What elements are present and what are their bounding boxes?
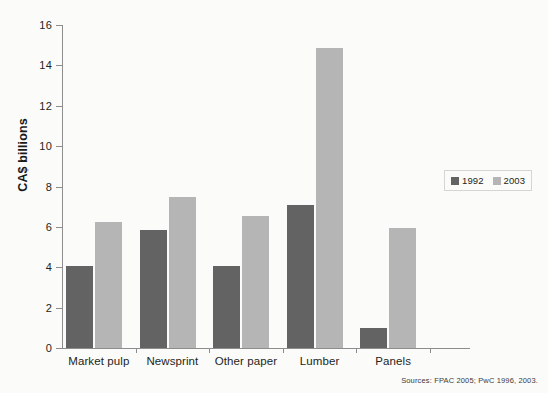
plot-area — [62, 25, 430, 348]
x-axis-label-other-paper: Other paper — [209, 355, 283, 367]
bar-group — [136, 25, 210, 348]
legend-swatch-2003 — [493, 177, 501, 185]
bar-chart-figure: CA$ billions 0246810121416 Market pulpNe… — [0, 0, 548, 393]
y-axis-tick-label: 0 — [8, 342, 52, 354]
y-axis-tick-label: 4 — [8, 261, 52, 273]
y-axis-tick-label: 14 — [8, 59, 52, 71]
bar-1992-newsprint — [140, 230, 167, 348]
bar-group — [283, 25, 357, 348]
y-axis-tick-label: 16 — [8, 19, 52, 31]
x-axis-label-newsprint: Newsprint — [136, 355, 210, 367]
bar-2003-other-paper — [242, 216, 269, 348]
bar-1992-other-paper — [213, 266, 240, 348]
x-axis-separator-tick — [283, 348, 284, 353]
x-axis-separator-tick — [209, 348, 210, 353]
legend-swatch-1992 — [451, 177, 459, 185]
bar-group — [209, 25, 283, 348]
legend-label: 1992 — [462, 175, 484, 186]
bar-2003-market-pulp — [95, 222, 122, 348]
bar-2003-lumber — [316, 48, 343, 348]
y-axis-tick-label: 6 — [8, 221, 52, 233]
x-axis-label-panels: Panels — [356, 355, 430, 367]
y-axis-tick — [56, 348, 62, 349]
bar-1992-panels — [360, 328, 387, 348]
y-axis-tick-label: 12 — [8, 100, 52, 112]
source-note: Sources: FPAC 2005; PwC 1996, 2003. — [401, 376, 538, 385]
bar-1992-market-pulp — [66, 266, 93, 348]
bar-2003-newsprint — [169, 197, 196, 348]
x-axis-label-market-pulp: Market pulp — [62, 355, 136, 367]
chart-legend: 19922003 — [444, 170, 532, 191]
bar-1992-lumber — [287, 205, 314, 348]
legend-item-2003: 2003 — [493, 175, 526, 186]
legend-item-1992: 1992 — [451, 175, 484, 186]
y-axis-tick-label: 10 — [8, 140, 52, 152]
x-axis-separator-tick — [430, 348, 431, 353]
y-axis-tick-label: 8 — [8, 181, 52, 193]
x-axis-separator-tick — [356, 348, 357, 353]
x-axis-label-lumber: Lumber — [283, 355, 357, 367]
x-axis-line — [62, 348, 470, 349]
x-axis-separator-tick — [136, 348, 137, 353]
bar-2003-panels — [389, 228, 416, 348]
y-axis-tick-label: 2 — [8, 302, 52, 314]
legend-label: 2003 — [504, 175, 526, 186]
bar-group — [62, 25, 136, 348]
bar-group — [356, 25, 430, 348]
